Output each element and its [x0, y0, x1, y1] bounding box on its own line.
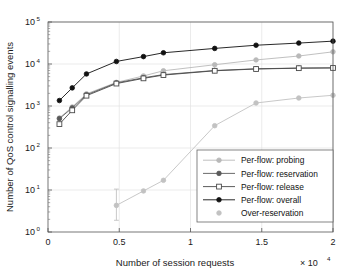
- data-point-marker: [297, 41, 302, 46]
- data-point-marker: [217, 184, 222, 189]
- y-tick-label-base: 10: [25, 101, 35, 111]
- data-point-marker: [70, 86, 75, 91]
- data-point-marker: [84, 93, 89, 98]
- legend[interactable]: Per-flow: probingPer-flow: reservationPe…: [197, 150, 333, 222]
- x-multiplier-base: × 10: [300, 258, 318, 268]
- data-point-marker: [217, 211, 222, 216]
- x-tick-label: 1: [188, 237, 193, 247]
- y-axis-label: Number of QoS control signalling events: [4, 42, 15, 212]
- data-point-marker: [254, 67, 259, 72]
- x-multiplier-exponent: 4: [327, 255, 331, 262]
- data-point-marker: [57, 98, 62, 103]
- y-tick-label-exponent: 4: [37, 57, 41, 64]
- data-point-marker: [217, 171, 222, 176]
- y-tick-label-exponent: 1: [37, 183, 41, 190]
- y-tick-label-base: 10: [25, 17, 35, 27]
- legend-label: Over-reservation: [241, 208, 304, 218]
- x-tick-label: 2: [330, 237, 335, 247]
- data-point-marker: [212, 46, 217, 51]
- y-tick-label-exponent: 5: [37, 15, 41, 22]
- data-point-marker: [161, 50, 166, 55]
- data-point-marker: [296, 66, 301, 71]
- y-tick-label-exponent: 2: [37, 141, 41, 148]
- y-tick-label-exponent: 3: [37, 99, 41, 106]
- figure-container: 00.511.52100101102103104105 Number of Qo…: [0, 0, 349, 276]
- data-point-marker: [161, 73, 166, 78]
- data-point-marker: [114, 81, 119, 86]
- x-tick-label: 0.5: [113, 237, 126, 247]
- x-tick-label: 0: [45, 237, 50, 247]
- legend-label: Per-flow: reservation: [241, 169, 318, 179]
- legend-label: Per-flow: release: [241, 182, 304, 192]
- y-tick-label-exponent: 0: [37, 225, 41, 232]
- data-point-marker: [217, 158, 222, 163]
- data-point-marker: [212, 123, 217, 128]
- data-point-marker: [161, 178, 166, 183]
- data-point-marker: [141, 54, 146, 59]
- data-point-marker: [254, 43, 259, 48]
- data-point-marker: [57, 122, 62, 127]
- data-point-marker: [297, 54, 302, 59]
- chart-canvas: 00.511.52100101102103104105 Number of Qo…: [0, 0, 349, 276]
- data-point-marker: [254, 58, 259, 63]
- data-point-marker: [141, 76, 146, 81]
- x-tick-label: 1.5: [255, 237, 268, 247]
- y-tick-label-base: 10: [25, 59, 35, 69]
- y-tick-label-base: 10: [25, 185, 35, 195]
- data-point-marker: [141, 189, 146, 194]
- x-axis-multiplier: × 10 4: [300, 255, 331, 268]
- data-point-marker: [212, 62, 217, 67]
- data-point-marker: [212, 68, 217, 73]
- data-point-marker: [217, 198, 222, 203]
- data-point-marker: [57, 116, 62, 121]
- y-tick-label-base: 10: [25, 143, 35, 153]
- data-point-marker: [297, 96, 302, 101]
- data-point-marker: [254, 101, 259, 106]
- data-point-marker: [84, 72, 89, 77]
- data-point-marker: [70, 108, 75, 113]
- legend-label: Per-flow: overall: [241, 195, 301, 205]
- data-point-marker: [114, 59, 119, 64]
- x-axis-label: Number of session requests: [116, 257, 235, 268]
- y-tick-label-base: 10: [25, 227, 35, 237]
- legend-label: Per-flow: probing: [241, 155, 305, 165]
